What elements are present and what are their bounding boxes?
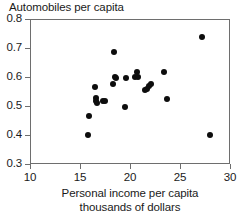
- data-point: [110, 81, 116, 87]
- data-point: [164, 96, 170, 102]
- x-tick-mark: [230, 164, 231, 169]
- x-tick-label: 25: [165, 171, 195, 183]
- data-point: [86, 113, 92, 119]
- y-tick-label: 0.5: [7, 99, 22, 111]
- x-tick-mark: [80, 164, 81, 169]
- x-tick-label: 10: [15, 171, 45, 183]
- plot-frame: [30, 19, 230, 164]
- data-point: [161, 69, 167, 75]
- x-tick-mark: [180, 164, 181, 169]
- x-tick-label: 20: [115, 171, 145, 183]
- plot-data-area: [31, 20, 229, 163]
- x-axis-label-line-2: thousands of dollars: [30, 200, 230, 214]
- data-point: [123, 75, 129, 81]
- data-point: [102, 98, 108, 104]
- data-point: [113, 75, 119, 81]
- data-point: [148, 81, 154, 87]
- x-tick-mark: [30, 164, 31, 169]
- x-axis-label-line-1: Personal income per capita: [30, 186, 230, 200]
- y-tick-label: 0.7: [7, 41, 22, 53]
- x-axis-label-block: Personal income per capita thousands of …: [30, 186, 230, 214]
- y-tick-label: 0.8: [7, 12, 22, 24]
- data-point: [207, 132, 213, 138]
- y-tick-label: 0.3: [7, 157, 22, 169]
- data-point: [92, 84, 98, 90]
- data-point: [111, 49, 117, 55]
- x-tick-mark: [130, 164, 131, 169]
- y-axis-label: Automobiles per capita: [9, 1, 124, 13]
- data-point: [122, 104, 128, 110]
- data-point: [199, 34, 205, 40]
- data-point: [135, 74, 141, 80]
- data-point: [85, 132, 91, 138]
- y-tick-label: 0.6: [7, 70, 22, 82]
- scatter-plot-figure: Automobiles per capita 0.30.40.50.60.70.…: [0, 0, 243, 219]
- x-tick-label: 30: [215, 171, 243, 183]
- y-tick-label: 0.4: [7, 128, 22, 140]
- x-tick-label: 15: [65, 171, 95, 183]
